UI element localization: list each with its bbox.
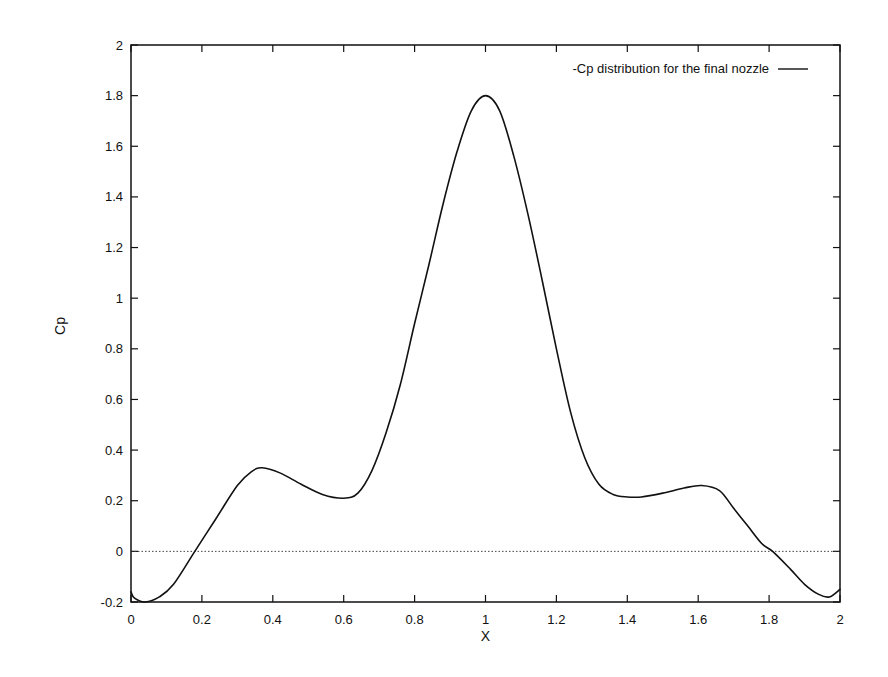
- legend-label: -Cp distribution for the final nozzle: [572, 61, 769, 76]
- y-tick-label: 1: [116, 291, 123, 306]
- x-tick-label: 2: [836, 612, 843, 627]
- cp-distribution-line: [131, 96, 840, 602]
- chart-canvas: -0.200.20.40.60.811.21.41.61.82 00.20.40…: [0, 0, 888, 677]
- y-tick-label: 0: [116, 544, 123, 559]
- x-tick-label: 0: [127, 612, 134, 627]
- x-tick-label: 0.6: [335, 612, 353, 627]
- y-axis-ticks: -0.200.20.40.60.811.21.41.61.82: [101, 38, 840, 610]
- x-tick-label: 1: [482, 612, 489, 627]
- y-tick-label: 0.2: [105, 493, 123, 508]
- y-tick-label: 1.2: [105, 240, 123, 255]
- x-axis-ticks: 00.20.40.60.811.21.41.61.82: [127, 45, 843, 627]
- y-tick-label: 1.4: [105, 189, 123, 204]
- y-tick-label: 0.8: [105, 341, 123, 356]
- x-tick-label: 0.4: [264, 612, 282, 627]
- x-axis-label: X: [481, 628, 491, 644]
- y-tick-label: 0.4: [105, 443, 123, 458]
- x-tick-label: 1.4: [618, 612, 636, 627]
- y-tick-label: 0.6: [105, 392, 123, 407]
- legend: -Cp distribution for the final nozzle: [572, 61, 808, 76]
- x-tick-label: 1.8: [760, 612, 778, 627]
- y-tick-label: 2: [116, 38, 123, 53]
- plot-frame: [131, 45, 840, 602]
- y-tick-label: 1.8: [105, 88, 123, 103]
- y-tick-label: 1.6: [105, 139, 123, 154]
- y-axis-label: Cp: [52, 317, 68, 335]
- x-tick-label: 1.6: [689, 612, 707, 627]
- x-tick-label: 1.2: [547, 612, 565, 627]
- x-tick-label: 0.2: [193, 612, 211, 627]
- y-tick-label: -0.2: [101, 595, 123, 610]
- x-tick-label: 0.8: [406, 612, 424, 627]
